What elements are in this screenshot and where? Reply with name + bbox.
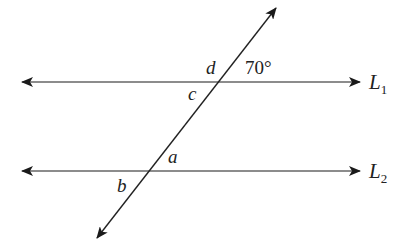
angle-label-a: a bbox=[168, 146, 178, 167]
angle-label-d: d bbox=[206, 57, 216, 78]
angle-label-c: c bbox=[188, 83, 197, 104]
diagram-canvas: L1 L2 d 70° c a b bbox=[0, 0, 413, 245]
angle-label-70-degrees: 70° bbox=[245, 57, 272, 78]
angle-label-b: b bbox=[117, 175, 127, 196]
label-l1: L1 bbox=[368, 70, 387, 97]
label-l2: L2 bbox=[368, 159, 387, 186]
transversal-line bbox=[97, 8, 276, 238]
